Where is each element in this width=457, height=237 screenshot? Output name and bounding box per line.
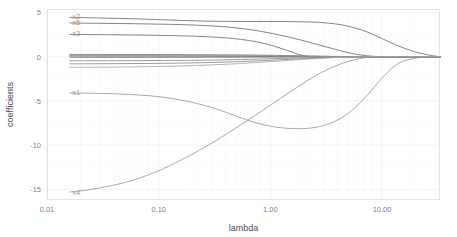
x-tick-label: 0.01 [40,205,55,214]
x-tick-label: 0.10 [151,205,166,214]
x-tick-label: 1.00 [263,205,278,214]
coefficient-path-chart: x2x5x3x1x4 0.010.101.0010.00 50-5-10-15 … [0,0,457,237]
plot-panel-background [47,9,440,200]
series-label-x1: x1 [72,88,80,97]
y-axis-title: coefficients [5,82,15,127]
chart-canvas: x2x5x3x1x4 0.010.101.0010.00 50-5-10-15 … [0,0,457,237]
series-label-x4: x4 [72,188,80,197]
y-tick-label: -5 [34,97,41,106]
series-label-x3: x3 [72,29,80,38]
y-axis-tick-labels: 50-5-10-15 [30,8,41,194]
y-tick-label: -10 [30,141,41,150]
series-label-x5: x5 [72,18,80,27]
x-tick-label: 10.00 [373,205,392,214]
x-axis-tick-labels: 0.010.101.0010.00 [40,205,392,214]
y-tick-label: -15 [30,185,41,194]
y-tick-label: 5 [37,8,41,17]
x-axis-title: lambda [229,223,259,233]
y-tick-label: 0 [37,53,41,62]
